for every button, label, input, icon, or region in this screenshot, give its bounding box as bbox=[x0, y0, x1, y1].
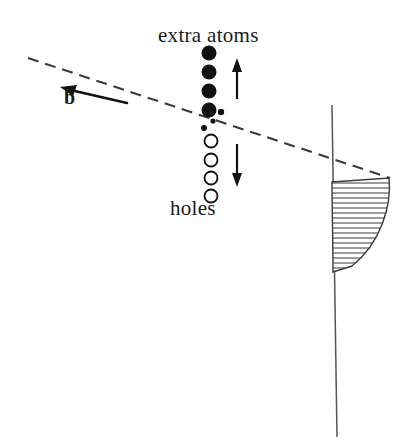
holes-group bbox=[205, 135, 218, 203]
burgers-vector-arrow bbox=[66, 89, 127, 103]
hatched-region bbox=[325, 178, 400, 272]
burgers-vector-label: b bbox=[64, 86, 75, 109]
open-hole bbox=[205, 154, 218, 167]
extra-atoms-group bbox=[202, 46, 217, 118]
extra-atoms-label: extra atoms bbox=[158, 23, 259, 48]
diagram-canvas bbox=[0, 0, 416, 448]
jog-dot bbox=[210, 118, 215, 123]
dislocation-climb-figure: extra atoms holes b bbox=[0, 0, 416, 448]
filled-atom bbox=[202, 103, 217, 118]
filled-atom bbox=[202, 84, 217, 99]
up-arrow-icon bbox=[232, 58, 242, 72]
jog-dot bbox=[201, 125, 207, 131]
filled-atom bbox=[202, 65, 217, 80]
down-arrow-icon bbox=[232, 173, 242, 187]
open-hole bbox=[205, 135, 218, 148]
holes-label: holes bbox=[170, 196, 216, 221]
open-hole bbox=[205, 172, 218, 185]
jog-dot bbox=[218, 109, 224, 115]
